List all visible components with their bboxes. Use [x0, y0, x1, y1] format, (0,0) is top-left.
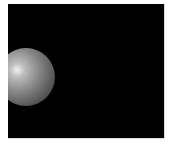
- shaded-sphere: [8, 48, 55, 106]
- render-canvas: [8, 4, 165, 139]
